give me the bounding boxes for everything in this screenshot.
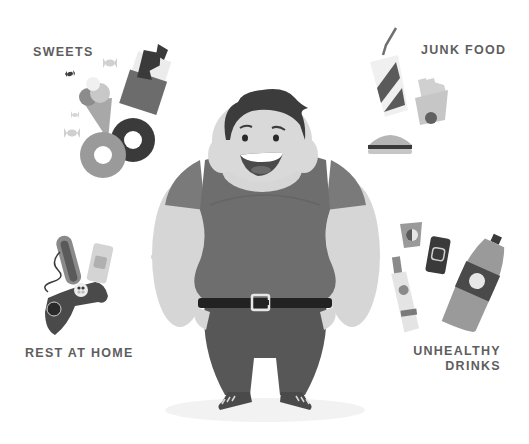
meatball <box>425 112 437 124</box>
ice-cream-icon <box>79 77 112 140</box>
burger-icon <box>368 135 412 154</box>
label-sweets: SWEETS <box>33 45 94 60</box>
candy-icon <box>65 70 75 77</box>
left-sleeve <box>165 160 205 210</box>
character <box>151 89 380 410</box>
plastic-bottle-icon <box>440 228 515 335</box>
donut-icon <box>80 118 155 178</box>
french-fries-icon <box>415 78 448 125</box>
label-junk-food: JUNK FOOD <box>421 43 506 58</box>
pants <box>204 302 326 395</box>
illustration <box>0 0 529 444</box>
label-unhealthy-drinks-line1: UNHEALTHY <box>413 344 501 359</box>
candy-icon <box>71 111 79 118</box>
paper-cup-icon <box>400 222 422 248</box>
rest-at-home-group <box>45 234 114 335</box>
label-unhealthy-drinks: UNHEALTHY DRINKS <box>413 344 501 374</box>
candy-icon <box>64 128 80 138</box>
soda-can-icon <box>425 236 451 275</box>
right-sleeve <box>326 160 366 210</box>
chocolate-bar-icon <box>119 46 175 115</box>
label-unhealthy-drinks-line2: DRINKS <box>413 359 501 374</box>
candy-icon <box>103 58 117 68</box>
right-eye <box>273 135 279 142</box>
sweets-group <box>64 44 175 178</box>
soda-can-icon <box>86 243 113 284</box>
ground-shadow <box>165 398 365 422</box>
unhealthy-drinks-group <box>389 222 515 335</box>
label-rest-at-home: REST AT HOME <box>25 346 134 361</box>
left-eye <box>242 135 248 142</box>
glass-bottle-icon <box>389 255 419 333</box>
soda-cup-icon <box>370 28 408 117</box>
